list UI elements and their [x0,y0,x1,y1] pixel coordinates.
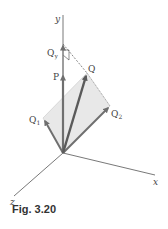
projection-dashed-line [63,44,87,73]
label-qy: Qy [47,48,58,60]
right-angle-marker [63,50,69,60]
q-plane [43,73,110,153]
label-q1: Q1 [29,115,40,126]
vector-diagram: y x z Qy P Q Q1 Q2 [0,0,168,229]
figure-caption: Fig. 3.20 [12,203,56,215]
label-q: Q [88,64,95,74]
y-axis-label: y [54,14,61,24]
label-p: P [53,72,59,82]
label-q2: Q2 [111,109,122,120]
z-axis [14,153,63,196]
x-axis [63,153,155,175]
x-axis-label: x [153,177,158,187]
